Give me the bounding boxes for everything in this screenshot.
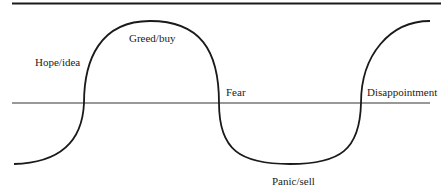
label-panic-sell: Panic/sell (272, 175, 315, 187)
emotional-cycle-diagram: Hope/idea Greed/buy Fear Disappointment … (0, 0, 444, 193)
label-disappointment: Disappointment (367, 86, 437, 98)
label-greed-buy: Greed/buy (129, 32, 175, 44)
label-hope-idea: Hope/idea (35, 56, 80, 68)
label-fear: Fear (226, 86, 246, 98)
